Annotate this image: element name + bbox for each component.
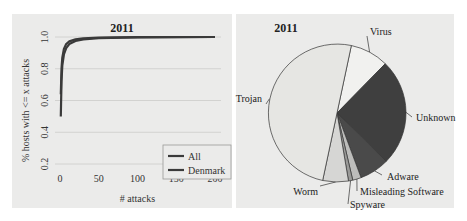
y-tick-label: 1.0 xyxy=(39,31,50,44)
x-tick-label: 50 xyxy=(94,173,104,184)
malware-pie-chart: VirusUnknownAdwareMisleading SoftwareSpy… xyxy=(236,14,454,208)
x-axis-label: # attacks xyxy=(120,193,155,204)
legend: AllDenmark xyxy=(163,145,231,179)
y-tick-label: 0.6 xyxy=(39,94,50,107)
x-tick-label: 0 xyxy=(58,173,63,184)
legend-label: All xyxy=(188,151,201,162)
pie-label-worm: Worm xyxy=(293,186,318,197)
series-line-all xyxy=(61,37,215,116)
pie-label-unknown: Unknown xyxy=(416,112,455,123)
legend-label: Denmark xyxy=(188,165,225,176)
leader-line xyxy=(406,112,412,117)
leader-line xyxy=(367,36,370,52)
y-tick-label: 0.4 xyxy=(39,126,50,139)
pie-chart-panel: 2011 VirusUnknownAdwareMisleading Softwa… xyxy=(236,14,454,208)
y-axis-label: % hosts with <= x attacks xyxy=(20,59,31,162)
y-tick-label: 0.8 xyxy=(39,63,50,76)
leader-line xyxy=(375,171,382,175)
cdf-line-chart: 0.20.40.60.81.0050100150200# attacks% ho… xyxy=(12,14,232,208)
pie-label-adware: Adware xyxy=(387,171,419,182)
series-line-denmark xyxy=(61,37,215,94)
y-tick-label: 0.2 xyxy=(39,158,50,171)
pie-label-virus: Virus xyxy=(370,26,392,37)
pie-label-spyware: Spyware xyxy=(350,199,386,210)
leader-line xyxy=(320,182,336,186)
pie-label-trojan: Trojan xyxy=(236,93,262,104)
pie-label-misleading-software: Misleading Software xyxy=(360,186,444,197)
cdf-chart-panel: 2011 0.20.40.60.81.0050100150200# attack… xyxy=(12,14,232,208)
x-tick-label: 100 xyxy=(130,173,145,184)
